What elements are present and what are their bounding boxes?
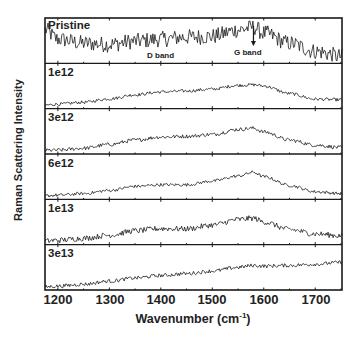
x-tick-1200: 1200 xyxy=(44,292,73,307)
x-axis-label-close: ) xyxy=(246,312,250,326)
x-axis-label: Wavenumber (cm-1) xyxy=(135,311,250,326)
spectrum-line-1e13 xyxy=(45,216,342,243)
spectrum-line-3e12 xyxy=(45,127,342,152)
x-axis-label-main: Wavenumber (cm xyxy=(135,312,239,326)
panel-label-3e12: 3e12 xyxy=(48,111,74,123)
g-band-annotation: G band xyxy=(234,48,262,57)
d-band-annotation: D band xyxy=(147,51,174,60)
raman-chart xyxy=(0,0,358,338)
panel-label-6e12: 6e12 xyxy=(48,157,74,169)
x-tick-1700: 1700 xyxy=(302,292,331,307)
panel-label-pristine: Pristine xyxy=(48,19,90,31)
spectrum-line-3e13 xyxy=(45,261,342,288)
x-tick-1400: 1400 xyxy=(147,292,176,307)
y-axis-label: Raman Scattering Intensity xyxy=(12,79,24,221)
x-tick-1500: 1500 xyxy=(198,292,227,307)
x-tick-1600: 1600 xyxy=(250,292,279,307)
x-tick-1300: 1300 xyxy=(96,292,125,307)
spectrum-line-6e12 xyxy=(45,171,342,197)
g-band-arrowhead-icon xyxy=(251,41,256,46)
panel-label-1e13: 1e13 xyxy=(48,202,74,214)
spectrum-line-1e12 xyxy=(45,83,342,105)
x-axis-label-exponent: -1 xyxy=(239,311,246,320)
panel-label-3e13: 3e13 xyxy=(48,247,74,259)
panel-label-1e12: 1e12 xyxy=(48,66,74,78)
